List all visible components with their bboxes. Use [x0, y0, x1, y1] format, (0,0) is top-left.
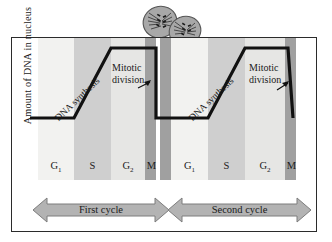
first-cycle-label: First cycle [47, 204, 155, 215]
second-cycle-label: Second cycle [182, 204, 297, 215]
figure-container: Amount of DNA in nucleus DNA synthesis D… [0, 0, 332, 242]
